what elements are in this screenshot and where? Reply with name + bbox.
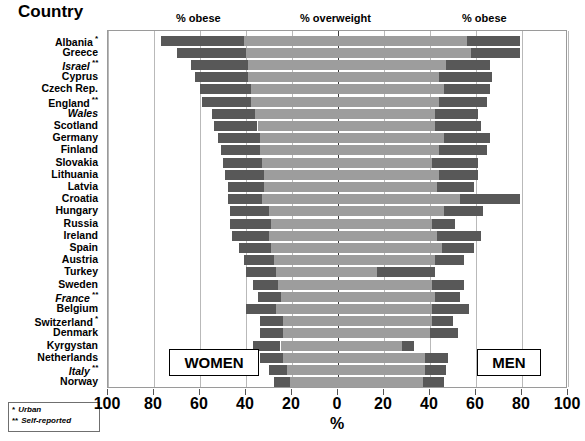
segment-women-obese bbox=[260, 328, 283, 338]
country-label-austria: Austria bbox=[62, 254, 98, 265]
segment-men-overweight bbox=[338, 72, 439, 82]
segment-men-overweight bbox=[338, 48, 471, 58]
bar-row[interactable] bbox=[108, 327, 566, 340]
bar-row[interactable] bbox=[108, 59, 566, 72]
bar-row[interactable] bbox=[108, 96, 566, 109]
segment-men-overweight bbox=[338, 377, 423, 387]
segment-men-overweight bbox=[338, 304, 432, 314]
segment-women-obese bbox=[258, 292, 281, 302]
segment-men-obese bbox=[439, 145, 487, 155]
plot-area bbox=[107, 30, 567, 388]
segment-women-obese bbox=[244, 255, 274, 265]
segment-women-obese bbox=[260, 353, 283, 363]
segment-women-overweight bbox=[271, 243, 338, 253]
segment-men-overweight bbox=[338, 292, 435, 302]
segment-women-obese bbox=[230, 219, 271, 229]
segment-men-obese bbox=[446, 60, 490, 70]
country-label-norway: Norway bbox=[60, 376, 98, 387]
bar-row[interactable] bbox=[108, 144, 566, 157]
segment-men-overweight bbox=[338, 60, 446, 70]
segment-men-obese bbox=[430, 328, 458, 338]
segment-men-overweight bbox=[338, 316, 432, 326]
segment-women-overweight bbox=[276, 304, 338, 314]
bar-row[interactable] bbox=[108, 205, 566, 218]
bar-row[interactable] bbox=[108, 181, 566, 194]
country-label-spain: Spain bbox=[69, 242, 98, 253]
bar-row[interactable] bbox=[108, 218, 566, 231]
segment-men-obese bbox=[437, 182, 474, 192]
segment-women-overweight bbox=[283, 328, 338, 338]
bar-row[interactable] bbox=[108, 47, 566, 60]
x-tick-label: 0 bbox=[333, 395, 342, 413]
segment-women-overweight bbox=[274, 255, 338, 265]
country-label-england: England** bbox=[48, 96, 98, 108]
segment-women-obese bbox=[232, 231, 269, 241]
segment-men-overweight bbox=[338, 231, 437, 241]
segment-women-obese bbox=[177, 48, 246, 58]
segment-men-obese bbox=[432, 219, 455, 229]
country-label-italy: Italy** bbox=[69, 364, 98, 376]
bar-row[interactable] bbox=[108, 230, 566, 243]
segment-men-obese bbox=[467, 36, 520, 46]
segment-women-overweight bbox=[258, 121, 339, 131]
segment-men-obese bbox=[423, 377, 444, 387]
segment-women-overweight bbox=[262, 158, 338, 168]
bar-row[interactable] bbox=[108, 157, 566, 170]
bar-row[interactable] bbox=[108, 71, 566, 84]
bar-row[interactable] bbox=[108, 376, 566, 389]
bar-row[interactable] bbox=[108, 266, 566, 279]
segment-men-obese bbox=[444, 133, 490, 143]
segment-men-obese bbox=[442, 243, 474, 253]
segment-women-overweight bbox=[290, 377, 338, 387]
country-label-netherlands: Netherlands bbox=[37, 352, 98, 363]
x-tick-label: 80 bbox=[512, 395, 530, 413]
segment-men-overweight bbox=[338, 121, 435, 131]
segment-men-obese bbox=[444, 84, 490, 94]
segment-men-obese bbox=[425, 365, 446, 375]
segment-men-overweight bbox=[338, 84, 444, 94]
bar-row[interactable] bbox=[108, 132, 566, 145]
segment-men-overweight bbox=[338, 243, 442, 253]
bar-row[interactable] bbox=[108, 279, 566, 292]
segment-men-overweight bbox=[338, 145, 439, 155]
segment-women-overweight bbox=[264, 170, 338, 180]
women-group-label: WOMEN bbox=[169, 349, 259, 376]
country-label-france: France** bbox=[55, 291, 98, 303]
segment-women-obese bbox=[274, 377, 290, 387]
segment-women-overweight bbox=[269, 206, 338, 216]
segment-men-overweight bbox=[338, 97, 439, 107]
bar-row[interactable] bbox=[108, 108, 566, 121]
segment-women-obese bbox=[225, 170, 264, 180]
bar-row[interactable] bbox=[108, 193, 566, 206]
segment-men-overweight bbox=[338, 206, 444, 216]
bar-rows bbox=[108, 31, 566, 387]
segment-men-obese bbox=[439, 97, 487, 107]
country-label-hungary: Hungary bbox=[55, 205, 98, 216]
bar-row[interactable] bbox=[108, 254, 566, 267]
bar-row[interactable] bbox=[108, 242, 566, 255]
segment-women-overweight bbox=[271, 219, 338, 229]
bar-row[interactable] bbox=[108, 303, 566, 316]
x-axis-label: % bbox=[330, 415, 344, 433]
segment-women-overweight bbox=[251, 97, 338, 107]
segment-women-overweight bbox=[255, 109, 338, 119]
country-label-scotland: Scotland bbox=[54, 120, 98, 131]
segment-men-overweight bbox=[338, 267, 377, 277]
segment-men-obese bbox=[432, 304, 469, 314]
segment-women-overweight bbox=[281, 292, 339, 302]
bar-row[interactable] bbox=[108, 169, 566, 182]
segment-men-obese bbox=[435, 121, 481, 131]
x-tick-label: 20 bbox=[282, 395, 300, 413]
segment-women-obese bbox=[218, 133, 259, 143]
segment-men-obese bbox=[425, 353, 448, 363]
bar-row[interactable] bbox=[108, 120, 566, 133]
segment-women-overweight bbox=[287, 365, 338, 375]
segment-men-obese bbox=[439, 72, 492, 82]
country-label-germany: Germany bbox=[52, 132, 98, 143]
segment-men-obese bbox=[444, 206, 483, 216]
bar-row[interactable] bbox=[108, 83, 566, 96]
segment-women-overweight bbox=[251, 84, 338, 94]
bar-row[interactable] bbox=[108, 315, 566, 328]
bar-row[interactable] bbox=[108, 35, 566, 48]
bar-row[interactable] bbox=[108, 291, 566, 304]
